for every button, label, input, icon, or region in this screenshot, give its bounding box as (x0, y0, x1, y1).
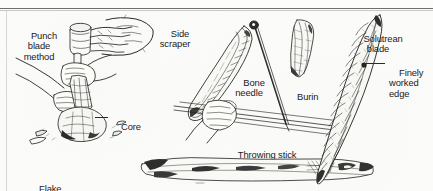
illustration-page: Punch blade method Core Flake (0, 0, 433, 191)
finely-worked-edge-leader-line (365, 63, 385, 64)
label-punch-blade-method-text: Punch blade method (24, 30, 57, 62)
label-core: Core (111, 111, 141, 143)
label-bone-needle-text: Bone needle (235, 77, 265, 99)
label-flake-text: Flake (39, 183, 61, 191)
left-margin-rule (6, 11, 7, 191)
label-flake: Flake (29, 173, 61, 191)
label-solutrean-blade-text: Solutrean blade (363, 33, 402, 55)
label-core-text: Core (121, 121, 141, 132)
label-finely-worked-edge: Finely worked edge (389, 57, 423, 110)
label-side-scraper-text: Side scraper (160, 28, 191, 50)
label-punch-blade-method: Punch blade method (14, 20, 64, 73)
core-leader-line (95, 117, 108, 118)
label-side-scraper: Side scraper (150, 18, 200, 60)
top-rule-divider (0, 8, 433, 9)
label-finely-worked-edge-text: Finely worked edge (389, 67, 423, 99)
top-rule-shadow (0, 10, 433, 11)
burin-figure (285, 18, 319, 80)
